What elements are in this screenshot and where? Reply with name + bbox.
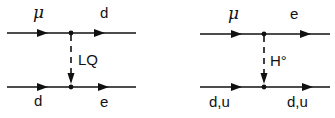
label-bottom-out: d,u (287, 93, 308, 110)
label-mediator: LQ (78, 51, 98, 68)
vertex (69, 31, 74, 36)
arrow-icon (300, 30, 311, 38)
label-mediator: H° (270, 52, 287, 69)
arrow-icon (94, 29, 105, 37)
diagram-neutral-higgs: μ e H° d,u d,u (200, 3, 330, 110)
feynman-diagrams: μ d LQ d e μ e H° d,u d,u (0, 0, 335, 118)
label-top-in: μ (228, 3, 239, 23)
label-bottom-in: d,u (209, 93, 230, 110)
arrow-icon (302, 83, 313, 91)
arrow-icon (231, 30, 242, 38)
arrow-icon (98, 83, 109, 91)
diagram-leptoquark: μ d LQ d e (7, 2, 136, 110)
arrow-icon (37, 29, 48, 37)
vertex (262, 32, 267, 37)
arrow-icon (231, 83, 242, 91)
label-top-in: μ (33, 2, 44, 22)
arrow-down-icon (68, 73, 75, 84)
label-bottom-in: d (34, 92, 42, 109)
vertex (262, 85, 267, 90)
label-top-out: e (290, 5, 298, 22)
arrow-down-icon (261, 73, 268, 84)
label-bottom-out: e (100, 93, 108, 110)
vertex (69, 85, 74, 90)
arrow-icon (37, 83, 48, 91)
label-top-out: d (100, 4, 108, 21)
